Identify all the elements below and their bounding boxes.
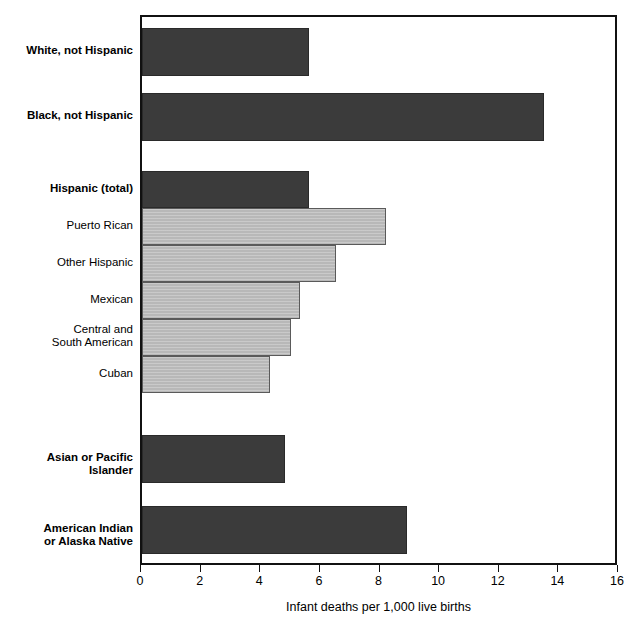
category-label-puerto-rican: Puerto Rican	[67, 219, 133, 232]
bar-other-hispanic	[142, 245, 336, 282]
x-tick-label-4: 4	[244, 574, 274, 588]
category-label-black-not-hispanic: Black, not Hispanic	[27, 109, 133, 122]
x-tick-label-6: 6	[304, 574, 334, 588]
category-label-central-and-south-american: Central and South American	[52, 323, 133, 349]
x-tick-label-0: 0	[125, 574, 155, 588]
bar-black-not-hispanic	[142, 93, 544, 141]
category-label-column: White, not Hispanic Black, not Hispanic …	[0, 0, 133, 565]
bar-white-not-hispanic	[142, 28, 309, 76]
category-label-mexican: Mexican	[90, 293, 133, 306]
category-label-american-indian-or-alaska-native: American Indian or Alaska Native	[44, 522, 133, 548]
category-label-white-not-hispanic: White, not Hispanic	[26, 44, 133, 57]
x-tick-mark-12	[498, 565, 499, 572]
x-tick-mark-8	[379, 565, 380, 572]
x-tick-label-12: 12	[483, 574, 513, 588]
bar-mexican	[142, 282, 300, 319]
bar-cuban	[142, 356, 270, 393]
x-tick-label-2: 2	[185, 574, 215, 588]
x-tick-mark-10	[438, 565, 439, 572]
x-tick-label-16: 16	[602, 574, 632, 588]
category-label-hispanic-total: Hispanic (total)	[50, 182, 133, 195]
x-axis-title: Infant deaths per 1,000 live births	[140, 600, 617, 614]
bar-central-and-south-american	[142, 319, 291, 356]
x-tick-mark-2	[200, 565, 201, 572]
category-label-cuban: Cuban	[99, 367, 133, 380]
x-tick-label-10: 10	[423, 574, 453, 588]
x-tick-mark-4	[259, 565, 260, 572]
bar-hispanic-total	[142, 171, 309, 208]
infant-mortality-bar-chart: White, not Hispanic Black, not Hispanic …	[0, 0, 640, 631]
bar-american-indian-or-alaska-native	[142, 506, 407, 554]
bar-puerto-rican	[142, 208, 386, 245]
plot-area	[140, 15, 617, 565]
x-tick-mark-0	[140, 565, 141, 572]
category-label-other-hispanic: Other Hispanic	[57, 256, 133, 269]
x-tick-mark-6	[319, 565, 320, 572]
x-tick-mark-14	[557, 565, 558, 572]
x-tick-label-8: 8	[364, 574, 394, 588]
x-tick-label-14: 14	[542, 574, 572, 588]
bar-asian-or-pacific-islander	[142, 435, 285, 483]
x-tick-mark-16	[617, 565, 618, 572]
category-label-asian-or-pacific-islander: Asian or Pacific Islander	[47, 451, 133, 477]
